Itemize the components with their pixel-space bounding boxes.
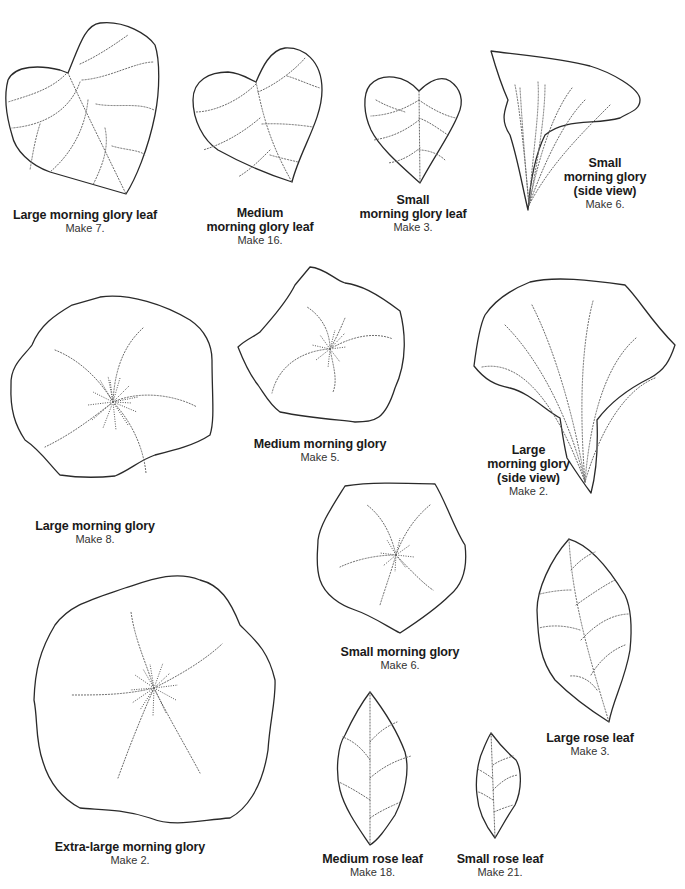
template-title: morning glory leaf — [348, 207, 478, 221]
template-quantity: Make 18. — [315, 866, 430, 878]
template-title: Large morning glory — [30, 519, 160, 533]
large-rose-leaf-shape — [537, 539, 631, 722]
template-title: morning glory — [476, 457, 581, 471]
small-morning-glory-leaf-shape — [365, 77, 461, 183]
medium-rose-leaf-shape — [338, 692, 411, 845]
label-small-rose-leaf: Small rose leaf Make 21. — [445, 852, 555, 878]
medium-morning-glory-leaf-shape — [193, 48, 322, 182]
label-large-morning-glory-leaf: Large morning glory leaf Make 7. — [10, 208, 160, 234]
large-morning-glory-leaf-shape — [6, 23, 159, 194]
label-small-morning-glory-side-view: Small morning glory (side view) Make 6. — [555, 156, 655, 210]
template-quantity: Make 8. — [30, 533, 160, 545]
template-title: Small — [555, 156, 655, 170]
label-large-morning-glory-side-view: Large morning glory (side view) Make 2. — [476, 443, 581, 497]
template-title: Large rose leaf — [530, 731, 650, 745]
template-title: Small — [348, 193, 478, 207]
template-quantity: Make 5. — [245, 451, 395, 463]
template-quantity: Make 2. — [40, 854, 220, 866]
template-title: Medium morning glory — [245, 437, 395, 451]
label-medium-morning-glory-leaf: Medium morning glory leaf Make 16. — [190, 206, 330, 246]
template-quantity: Make 3. — [348, 221, 478, 233]
template-quantity: Make 6. — [325, 659, 475, 671]
extra-large-morning-glory-shape — [34, 576, 275, 823]
template-title: (side view) — [555, 184, 655, 198]
label-medium-rose-leaf: Medium rose leaf Make 18. — [315, 852, 430, 878]
label-small-morning-glory-leaf: Small morning glory leaf Make 3. — [348, 193, 478, 233]
template-quantity: Make 2. — [476, 485, 581, 497]
template-title: Medium — [190, 206, 330, 220]
template-quantity: Make 6. — [555, 198, 655, 210]
template-quantity: Make 21. — [445, 866, 555, 878]
template-title: Extra-large morning glory — [40, 840, 220, 854]
template-title: morning glory — [555, 170, 655, 184]
template-title: Large morning glory leaf — [10, 208, 160, 222]
small-rose-leaf-shape — [476, 733, 520, 838]
medium-morning-glory-shape — [238, 267, 404, 422]
template-title: Small rose leaf — [445, 852, 555, 866]
label-small-morning-glory: Small morning glory Make 6. — [325, 645, 475, 671]
template-quantity: Make 16. — [190, 234, 330, 246]
small-morning-glory-shape — [317, 483, 466, 633]
template-title: morning glory leaf — [190, 220, 330, 234]
template-title: Large — [476, 443, 581, 457]
label-medium-morning-glory: Medium morning glory Make 5. — [245, 437, 395, 463]
template-title: (side view) — [476, 471, 581, 485]
template-title: Medium rose leaf — [315, 852, 430, 866]
label-extra-large-morning-glory: Extra-large morning glory Make 2. — [40, 840, 220, 866]
label-large-morning-glory: Large morning glory Make 8. — [30, 519, 160, 545]
template-quantity: Make 3. — [530, 745, 650, 757]
template-quantity: Make 7. — [10, 222, 160, 234]
label-large-rose-leaf: Large rose leaf Make 3. — [530, 731, 650, 757]
large-morning-glory-shape — [11, 296, 213, 477]
template-title: Small morning glory — [325, 645, 475, 659]
